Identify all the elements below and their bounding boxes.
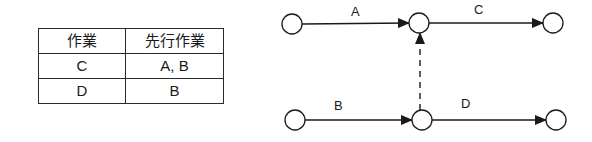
node-4	[285, 110, 305, 130]
activity-a: A	[302, 4, 409, 24]
label-d: D	[461, 96, 470, 111]
node-2	[409, 13, 429, 33]
activity-c: C	[429, 2, 543, 23]
label-c: C	[474, 2, 483, 17]
node-3	[543, 13, 563, 33]
node-1	[282, 14, 302, 34]
activity-d: D	[432, 96, 546, 120]
node-6	[546, 110, 566, 130]
label-b: B	[334, 98, 343, 113]
node-5	[412, 110, 432, 130]
arrow-diagram: A C B D	[0, 0, 592, 142]
label-a: A	[351, 4, 360, 19]
arrow-a	[302, 23, 409, 24]
activity-b: B	[305, 98, 412, 120]
